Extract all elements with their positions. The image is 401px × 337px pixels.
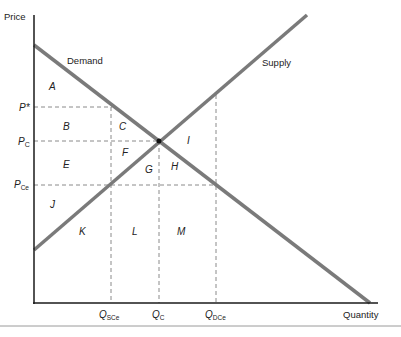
- region-h-label: H: [171, 161, 179, 172]
- region-k-label: K: [79, 226, 87, 237]
- qc-label: QC: [152, 309, 165, 321]
- region-f-label: F: [122, 147, 129, 158]
- region-e-label: E: [63, 159, 70, 170]
- region-m-label: M: [177, 226, 186, 237]
- demand-label: Demand: [67, 55, 103, 66]
- region-l-label: L: [132, 226, 138, 237]
- qdce-label: QDCe: [205, 309, 226, 321]
- equilibrium-point: [157, 139, 162, 144]
- demand-curve: [34, 45, 370, 303]
- region-i-label: I: [187, 135, 190, 146]
- region-b-label: B: [63, 121, 70, 132]
- pc-label: PC: [18, 136, 30, 148]
- supply-label: Supply: [262, 57, 291, 68]
- y-axis-label: Price: [4, 11, 26, 22]
- p-star-label: P*: [19, 102, 31, 113]
- supply-demand-diagram: Price Quantity Demand Supply P* PC PCe Q…: [0, 0, 401, 337]
- region-a-label: A: [48, 81, 56, 92]
- region-c-label: C: [119, 121, 127, 132]
- pce-label: PCe: [14, 179, 29, 191]
- region-j-label: J: [49, 199, 56, 210]
- qsce-label: QSCe: [99, 309, 120, 321]
- region-g-label: G: [145, 164, 153, 175]
- supply-curve: [34, 15, 307, 250]
- x-axis-label: Quantity: [343, 309, 379, 320]
